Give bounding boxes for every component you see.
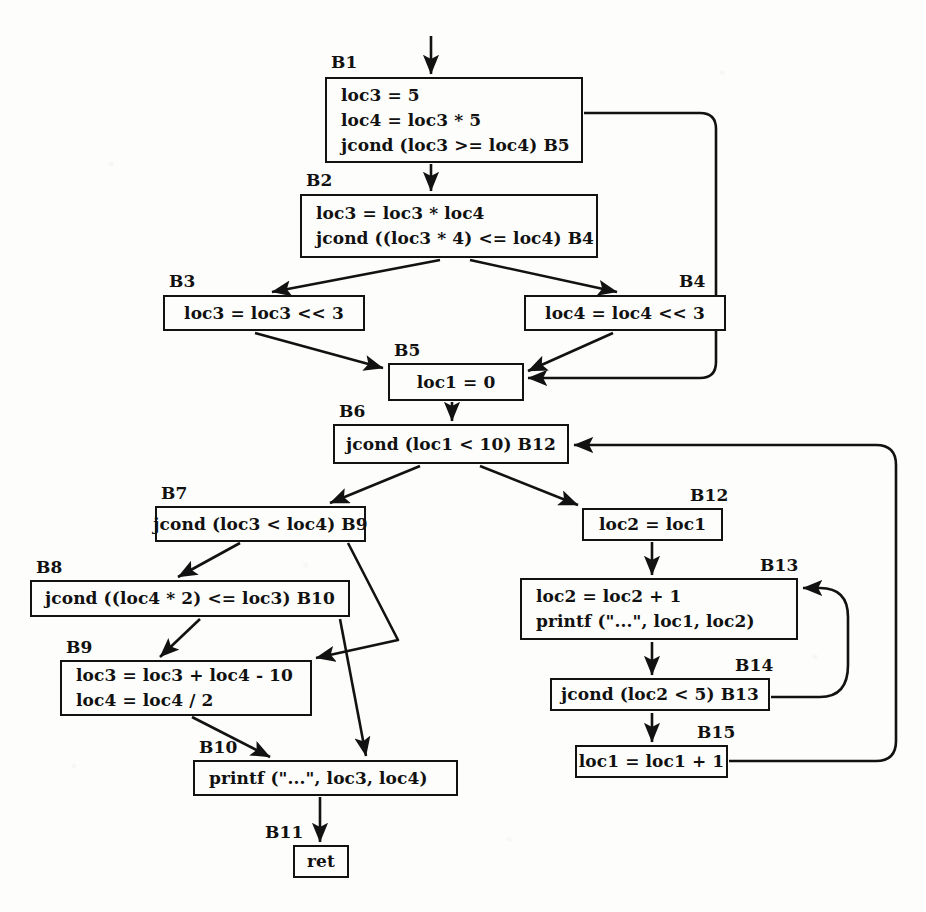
block-label-b6: B6 [339,401,366,421]
block-label-b14: B14 [735,655,774,675]
block-label-b3: B3 [169,271,196,291]
basic-block-b10[interactable]: printf ("...", loc3, loc4) [193,760,458,796]
statement: loc4 = loc4 << 3 [545,301,705,326]
statement: jcond (loc1 < 10) B12 [346,432,556,457]
statement: loc1 = 0 [417,370,496,395]
edge-b8-to-b10 [340,619,366,756]
edge-b4-to-b5 [528,333,613,371]
edge-b7-to-b8 [178,543,240,577]
block-label-b12: B12 [690,485,729,505]
basic-block-b8[interactable]: jcond ((loc4 * 2) <= loc3) B10 [30,580,350,617]
statement: loc4 = loc4 / 2 [76,688,310,713]
statement: loc2 = loc2 + 1 [536,584,796,609]
edge-b2-to-b4 [470,260,617,292]
statement: ret [307,849,335,874]
basic-block-b13[interactable]: loc2 = loc2 + 1printf ("...", loc1, loc2… [520,578,798,640]
edge-b6-to-b12 [480,466,578,505]
basic-block-b9[interactable]: loc3 = loc3 + loc4 - 10loc4 = loc4 / 2 [60,660,312,716]
basic-block-b4[interactable]: loc4 = loc4 << 3 [524,295,726,331]
cfg-canvas: B1loc3 = 5loc4 = loc3 * 5jcond (loc3 >= … [0,0,926,912]
statement: printf ("...", loc3, loc4) [209,766,456,791]
basic-block-b2[interactable]: loc3 = loc3 * loc4jcond ((loc3 * 4) <= l… [300,194,598,258]
statement: loc3 = loc3 + loc4 - 10 [76,663,310,688]
statement: jcond ((loc4 * 2) <= loc3) B10 [45,586,335,611]
statement: loc3 = 5 [341,83,581,108]
basic-block-b11[interactable]: ret [293,845,349,878]
edge-b8-to-b9 [160,619,200,657]
block-label-b7: B7 [161,483,188,503]
block-label-b8: B8 [36,557,63,577]
edge-b3-to-b5 [255,333,383,368]
statement: loc1 = loc1 + 1 [579,749,724,774]
block-label-b2: B2 [306,170,333,190]
basic-block-b5[interactable]: loc1 = 0 [388,363,524,401]
basic-block-b1[interactable]: loc3 = 5loc4 = loc3 * 5jcond (loc3 >= lo… [325,77,583,163]
block-label-b10: B10 [199,737,238,757]
edge-b6-to-b7 [330,466,420,503]
statement: jcond (loc3 < loc4) B9 [153,512,367,537]
statement: loc3 = loc3 << 3 [184,301,344,326]
basic-block-b14[interactable]: jcond (loc2 < 5) B13 [550,678,770,711]
block-label-b4: B4 [679,271,706,291]
statement: loc2 = loc1 [599,512,706,537]
basic-block-b7[interactable]: jcond (loc3 < loc4) B9 [155,506,366,542]
statement: printf ("...", loc1, loc2) [536,609,796,634]
statement: jcond (loc2 < 5) B13 [561,682,759,707]
statement: loc3 = loc3 * loc4 [316,201,596,226]
statement: jcond (loc3 >= loc4) B5 [341,133,581,158]
basic-block-b6[interactable]: jcond (loc1 < 10) B12 [333,424,569,464]
block-label-b9: B9 [66,637,93,657]
block-label-b11: B11 [265,822,304,842]
block-label-b15: B15 [697,722,736,742]
statement: loc4 = loc3 * 5 [341,108,581,133]
statement: jcond ((loc3 * 4) <= loc4) B4 [316,226,596,251]
basic-block-b12[interactable]: loc2 = loc1 [582,508,723,541]
block-label-b5: B5 [394,340,421,360]
edge-b2-to-b3 [272,260,440,292]
basic-block-b3[interactable]: loc3 = loc3 << 3 [163,295,365,331]
block-label-b13: B13 [760,555,799,575]
basic-block-b15[interactable]: loc1 = loc1 + 1 [575,745,728,778]
block-label-b1: B1 [331,52,358,72]
